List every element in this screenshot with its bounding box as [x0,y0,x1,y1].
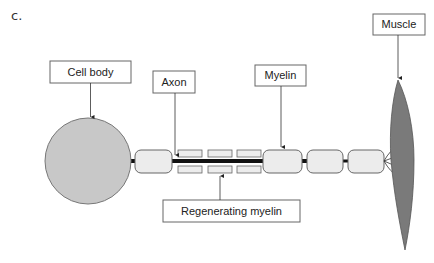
myelin-segment [307,150,343,173]
muscle-shape [390,80,414,250]
myelin-segment [263,150,302,173]
label-cell-body: Cell body [50,61,131,117]
svg-text:Myelin: Myelin [265,69,297,81]
svg-text:Cell body: Cell body [68,66,114,78]
svg-text:Axon: Axon [161,76,186,88]
svg-text:Muscle: Muscle [382,18,417,30]
neuron-diagram: Cell body Axon Myelin Muscle Regeneratin… [0,0,434,263]
label-muscle: Muscle [373,14,425,78]
svg-text:Regenerating myelin: Regenerating myelin [181,205,282,217]
label-regenerating-myelin: Regenerating myelin [163,176,300,222]
myelin-segment [135,150,172,173]
cell-body-circle [45,118,131,204]
label-axon: Axon [153,71,195,155]
myelin-segment [348,150,384,173]
label-myelin: Myelin [255,65,306,147]
